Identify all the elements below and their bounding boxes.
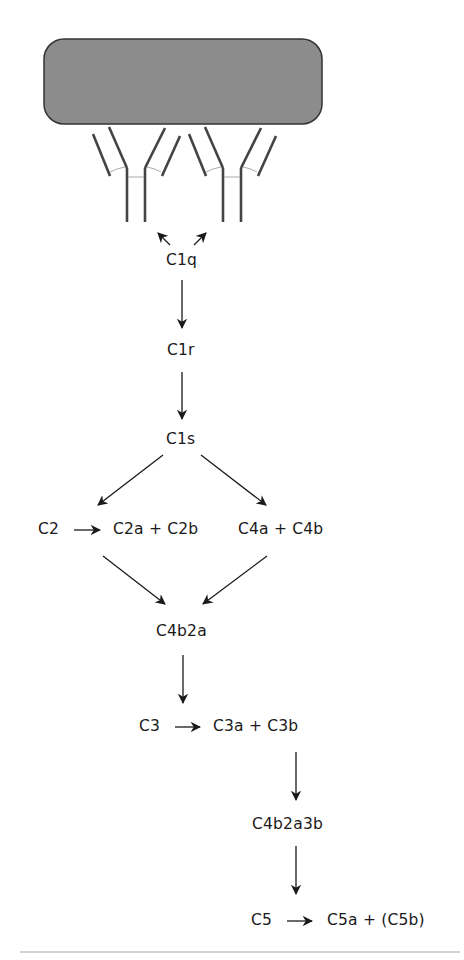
node-c3-split: C3a + C3b (213, 717, 298, 735)
node-c1r: C1r (167, 341, 195, 359)
node-c4-split: C4a + C4b (238, 520, 323, 538)
arrow-c1q-ab1 (158, 233, 170, 245)
antibody-1-icon (93, 127, 180, 222)
node-c1q: C1q (166, 251, 197, 269)
node-c5: C5 (251, 911, 272, 929)
node-c4b2a: C4b2a (156, 622, 207, 640)
node-c1s: C1s (166, 430, 195, 448)
node-c2: C2 (38, 520, 59, 538)
node-c3: C3 (139, 717, 160, 735)
antibody-2-icon (189, 127, 276, 222)
arrow-c2split-c4b2a (103, 556, 165, 604)
node-c2-split: C2a + C2b (113, 520, 198, 538)
antigen-surface (44, 39, 322, 124)
arrow-c1s-c2split (98, 455, 163, 505)
diagram-canvas (0, 0, 464, 960)
arrow-c1s-c4split (201, 455, 266, 505)
arrow-c4split-c4b2a (203, 556, 267, 604)
node-c5-split: C5a + (C5b) (327, 911, 425, 929)
node-c4b2a3b: C4b2a3b (252, 815, 323, 833)
arrow-c1q-ab2 (194, 233, 206, 245)
